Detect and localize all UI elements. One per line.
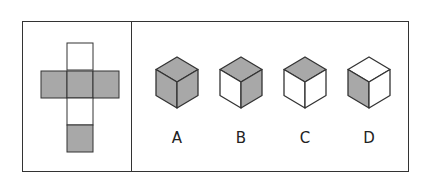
puzzle-graphics	[0, 0, 429, 185]
cube-net	[41, 43, 119, 152]
cube-option-b[interactable]	[220, 57, 262, 108]
net-square-1	[41, 71, 67, 98]
cube-options	[156, 57, 390, 108]
option-c-label[interactable]: C	[295, 129, 315, 147]
option-a-label[interactable]: A	[167, 129, 187, 147]
net-square-5	[67, 125, 93, 152]
option-b-label[interactable]: B	[231, 129, 251, 147]
cube-option-c[interactable]	[284, 57, 326, 108]
cube-option-d[interactable]	[348, 57, 390, 108]
net-square-4	[67, 98, 93, 125]
net-square-3	[93, 71, 119, 98]
cube-option-a[interactable]	[156, 57, 198, 108]
net-square-2	[67, 71, 93, 98]
option-d-label[interactable]: D	[359, 129, 379, 147]
net-square-0	[67, 43, 93, 70]
